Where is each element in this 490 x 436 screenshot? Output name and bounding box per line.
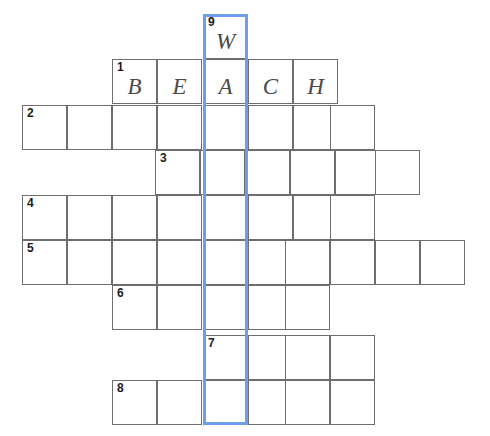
- crossword-cell[interactable]: [245, 150, 290, 195]
- crossword-cell[interactable]: [203, 380, 248, 425]
- crossword-cell[interactable]: [248, 195, 293, 240]
- cell-number: 2: [27, 107, 34, 119]
- crossword-cell[interactable]: 4: [22, 195, 67, 240]
- crossword-cell[interactable]: [285, 240, 330, 285]
- cell-number: 9: [208, 16, 215, 28]
- crossword-cell[interactable]: [335, 150, 380, 195]
- crossword-cell[interactable]: [375, 150, 420, 195]
- cell-letter: B: [113, 75, 156, 98]
- cell-letter: C: [249, 75, 292, 98]
- crossword-cell[interactable]: 1B: [112, 59, 157, 104]
- crossword-cell[interactable]: C: [248, 59, 293, 104]
- crossword-cell[interactable]: 7: [203, 335, 248, 380]
- cell-number: 1: [117, 61, 124, 73]
- crossword-cell[interactable]: 5: [22, 240, 67, 285]
- crossword-cell[interactable]: [157, 240, 202, 285]
- crossword-cell[interactable]: 3: [155, 150, 200, 195]
- crossword-cell[interactable]: [420, 240, 465, 285]
- crossword-cell[interactable]: [112, 240, 157, 285]
- crossword-cell[interactable]: [203, 195, 248, 240]
- cell-number: 4: [27, 197, 34, 209]
- crossword-cell[interactable]: [67, 240, 112, 285]
- crossword-cell[interactable]: [285, 285, 330, 330]
- crossword-cell[interactable]: [157, 195, 202, 240]
- cell-letter: E: [158, 75, 201, 98]
- crossword-cell[interactable]: 2: [22, 105, 67, 150]
- cell-number: 8: [117, 382, 124, 394]
- crossword-cell[interactable]: [157, 285, 202, 330]
- crossword-cell[interactable]: [285, 380, 330, 425]
- cell-number: 3: [160, 152, 167, 164]
- crossword-cell[interactable]: [200, 150, 245, 195]
- crossword-cell[interactable]: [285, 335, 330, 380]
- cell-letter: W: [204, 30, 247, 53]
- cell-letter: H: [294, 75, 337, 98]
- crossword-cell[interactable]: E: [157, 59, 202, 104]
- crossword-cell[interactable]: [67, 105, 112, 150]
- crossword-puzzle: 9W1BEACH2345678: [0, 0, 490, 436]
- crossword-cell[interactable]: [203, 105, 248, 150]
- crossword-cell[interactable]: [330, 240, 375, 285]
- crossword-cell[interactable]: [375, 240, 420, 285]
- crossword-cell[interactable]: H: [293, 59, 338, 104]
- cell-number: 5: [27, 242, 34, 254]
- crossword-cell[interactable]: [330, 380, 375, 425]
- crossword-cell[interactable]: [330, 335, 375, 380]
- crossword-cell[interactable]: [330, 195, 375, 240]
- crossword-cell[interactable]: [203, 240, 248, 285]
- crossword-cell[interactable]: [112, 105, 157, 150]
- crossword-cell[interactable]: 8: [112, 380, 157, 425]
- crossword-cell[interactable]: [290, 150, 335, 195]
- cell-letter: A: [204, 75, 247, 98]
- crossword-cell[interactable]: [203, 285, 248, 330]
- crossword-cell[interactable]: 9W: [203, 14, 248, 59]
- crossword-cell[interactable]: [157, 380, 202, 425]
- crossword-cell[interactable]: A: [203, 59, 248, 104]
- crossword-cell[interactable]: 6: [112, 285, 157, 330]
- crossword-cell[interactable]: [330, 105, 375, 150]
- crossword-cell[interactable]: [67, 195, 112, 240]
- crossword-cell[interactable]: [248, 105, 293, 150]
- cell-number: 7: [208, 337, 215, 349]
- crossword-cell[interactable]: [157, 105, 202, 150]
- cell-number: 6: [117, 287, 124, 299]
- crossword-cell[interactable]: [112, 195, 157, 240]
